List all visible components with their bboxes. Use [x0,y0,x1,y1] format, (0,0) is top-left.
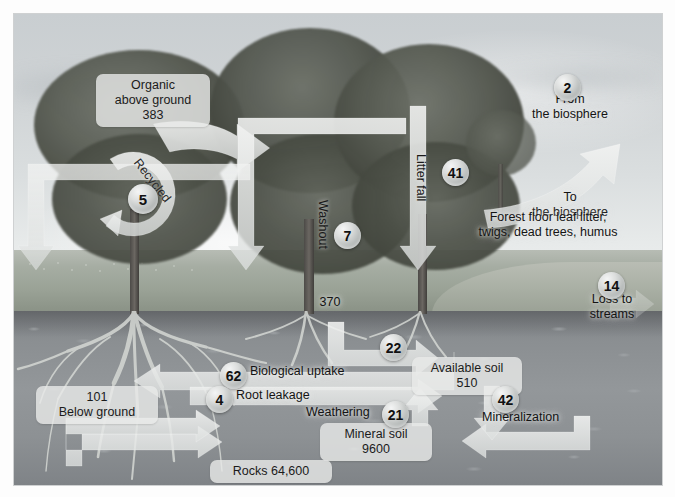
mineral-soil-value: 9600 [329,442,423,457]
label-weathering: Weathering [306,405,386,420]
badge-litter-fall: 41 [442,159,469,186]
below-ground-value: 101 [45,390,149,405]
label-mineralization: Mineralization [482,410,578,425]
label-forest-floor-note: Forest floor leaf litter, twigs, dead tr… [458,210,638,240]
badge-weathering: 21 [382,401,409,428]
rocks-text: Rocks 64,600 [219,464,323,479]
label-root-leakage: Root leakage [236,388,326,403]
forest-floor-line2: twigs, dead trees, humus [458,225,638,240]
badge-recycled: 5 [128,184,158,214]
loss-streams-line2: streams [572,307,652,322]
forest-floor-line1: Forest floor leaf litter, [458,210,638,225]
diagram-plate: Organic above ground 383 101 Below groun… [14,14,662,485]
label-organic-above-ground: Organic above ground 383 [96,74,210,127]
badge-mineralization: 42 [492,386,519,413]
badge-loss-to-streams: 14 [598,272,625,299]
page-root: Organic above ground 383 101 Below groun… [0,0,675,497]
organic-line2: above ground [105,93,201,108]
badge-root-leakage: 4 [206,386,233,413]
label-litter-fall: Litter fall [414,154,428,201]
label-washout: Washout [316,200,330,249]
badge-leaching: 22 [380,334,407,361]
arrow-washout-branch [18,164,250,270]
arrow-recycled-head [100,210,122,236]
label-washout-value: 370 [310,295,350,310]
available-soil-name: Available soil [421,361,513,376]
label-mineral-soil: Mineral soil 9600 [320,423,432,461]
badge-from-biosphere: 2 [554,74,581,101]
mineral-soil-name: Mineral soil [329,427,423,442]
label-below-ground: 101 Below ground [36,386,158,424]
from-biosphere-line2: the biosphere [518,107,622,122]
organic-line1: Organic [105,78,201,93]
badge-washout: 7 [334,222,361,249]
label-rocks: Rocks 64,600 [210,460,332,483]
to-biosphere-line1: To [518,190,622,205]
label-biological-uptake: Biological uptake [250,364,366,379]
badge-biological-uptake: 62 [220,362,247,389]
below-ground-name: Below ground [45,405,149,420]
organic-value: 383 [105,108,201,123]
